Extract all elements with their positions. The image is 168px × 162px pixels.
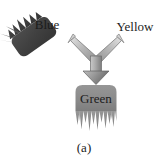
arrow-stem	[91, 56, 102, 73]
node-blue-label: Blue	[35, 17, 60, 32]
figure-caption: (a)	[77, 140, 91, 155]
figure-canvas: Blue Green Yellow	[0, 0, 168, 162]
figure-container: Blue Green Yellow	[0, 0, 168, 162]
node-green-label: Green	[80, 91, 112, 106]
node-yellow-label: Yellow	[117, 19, 155, 34]
